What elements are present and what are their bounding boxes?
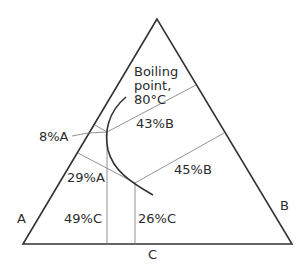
boiling-point-label: Boiling point, 80°C bbox=[134, 65, 178, 107]
label-43B: 43%B bbox=[136, 117, 174, 131]
vertex-A-label: A bbox=[17, 212, 26, 226]
label-49C: 49%C bbox=[64, 212, 102, 226]
label-29A: 29%A bbox=[67, 171, 105, 185]
label-8A: 8%A bbox=[39, 130, 69, 144]
upper-a-line bbox=[95, 125, 107, 132]
label-26C: 26%C bbox=[138, 212, 176, 226]
8A-leader-line bbox=[72, 132, 107, 136]
vertex-C-label: C bbox=[148, 248, 157, 262]
label-45B: 45%B bbox=[174, 163, 212, 177]
vertex-B-label: B bbox=[280, 199, 289, 213]
